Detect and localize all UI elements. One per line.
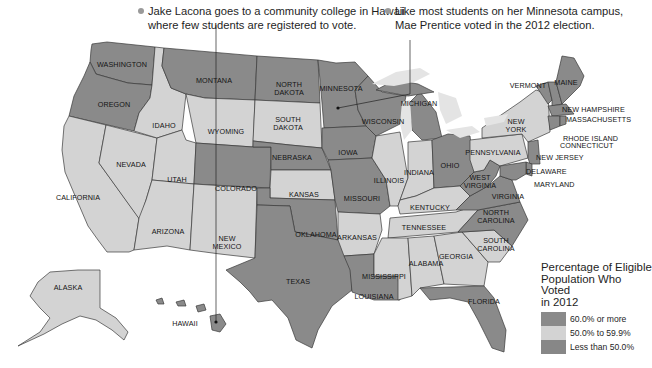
legend-title-line3: in 2012 bbox=[541, 297, 652, 309]
callout-hawaii-line1: Jake Lacona goes to a community college … bbox=[148, 5, 405, 17]
label-montana: MONTANA bbox=[196, 76, 232, 85]
label-new-hampshire: NEW HAMPSHIRE bbox=[562, 105, 625, 114]
label-tennessee: TENNESSEE bbox=[402, 223, 447, 232]
legend-label-under-50: Less than 50.0% bbox=[570, 342, 634, 352]
state-hawaii-big-island bbox=[210, 314, 226, 332]
legend-item-60-plus: 60.0% or more bbox=[541, 312, 652, 326]
label-louisiana: LOUISIANA bbox=[354, 292, 393, 301]
label-wyoming: WYOMING bbox=[208, 127, 245, 136]
label-north-carolina-2: CAROLINA bbox=[477, 216, 515, 225]
label-missouri: MISSOURI bbox=[344, 194, 380, 203]
label-maine: MAINE bbox=[554, 78, 577, 87]
label-oklahoma: OKLAHOMA bbox=[295, 230, 337, 239]
legend-item-50-to-59: 50.0% to 59.9% bbox=[541, 326, 652, 340]
label-ohio: OHIO bbox=[441, 161, 460, 170]
label-florida: FLORIDA bbox=[468, 297, 500, 306]
legend-label-60-plus: 60.0% or more bbox=[570, 314, 626, 324]
label-pennsylvania: PENNSYLVANIA bbox=[465, 148, 520, 157]
legend-swatch-60-plus bbox=[541, 312, 566, 326]
legend-item-under-50: Less than 50.0% bbox=[541, 340, 652, 354]
label-arkansas: ARKANSAS bbox=[337, 233, 377, 242]
legend-title: Percentage of Eligible Population Who Vo… bbox=[541, 262, 652, 308]
legend-swatch-under-50 bbox=[541, 340, 566, 354]
bullet-icon bbox=[385, 8, 391, 14]
label-iowa: IOWA bbox=[338, 148, 357, 157]
label-utah: UTAH bbox=[167, 175, 186, 184]
lake-superior bbox=[372, 68, 430, 86]
label-delaware: DELAWARE bbox=[526, 167, 567, 176]
label-hawaii: HAWAII bbox=[172, 319, 198, 328]
callout-minnesota-line2: Mae Prentice voted in the 2012 election. bbox=[395, 19, 595, 31]
label-texas: TEXAS bbox=[286, 277, 310, 286]
label-alaska: ALASKA bbox=[54, 283, 83, 292]
label-kentucky: KENTUCKY bbox=[410, 203, 450, 212]
state-florida bbox=[420, 286, 506, 352]
label-michigan: MICHIGAN bbox=[401, 99, 438, 108]
label-new-mexico-2: MEXICO bbox=[213, 242, 242, 251]
label-nebraska: NEBRASKA bbox=[272, 153, 312, 162]
legend-label-50-to-59: 50.0% to 59.9% bbox=[570, 328, 631, 338]
label-south-dakota-2: DAKOTA bbox=[273, 123, 303, 132]
label-vermont: VERMONT bbox=[510, 81, 547, 90]
callout-hawaii-line2: where few students are registered to vot… bbox=[148, 19, 356, 31]
state-hawaii-maui bbox=[196, 304, 206, 312]
callout-hawaii-dot bbox=[214, 320, 217, 323]
state-connecticut bbox=[548, 116, 560, 130]
label-wisconsin: WISCONSIN bbox=[362, 117, 404, 126]
legend-swatch-50-to-59 bbox=[541, 326, 566, 340]
label-mississippi: MISSISSIPPI bbox=[362, 272, 406, 281]
callout-minnesota: Like most students on her Minnesota camp… bbox=[385, 4, 623, 32]
label-illinois: ILLINOIS bbox=[374, 176, 404, 185]
label-new-york-2: YORK bbox=[506, 125, 527, 134]
callout-minnesota-line1: Like most students on her Minnesota camp… bbox=[395, 5, 623, 17]
legend-title-line1: Percentage of Eligible bbox=[541, 262, 652, 274]
state-alaska bbox=[18, 270, 128, 346]
state-new-york bbox=[482, 90, 550, 142]
label-indiana: INDIANA bbox=[404, 168, 434, 177]
label-kansas: KANSAS bbox=[289, 190, 319, 199]
label-idaho: IDAHO bbox=[152, 121, 176, 130]
label-maryland: MARYLAND bbox=[534, 180, 575, 189]
legend-title-line2: Population Who Voted bbox=[541, 274, 652, 297]
label-california: CALIFORNIA bbox=[56, 193, 100, 202]
label-nevada: NEVADA bbox=[116, 160, 146, 169]
callout-minnesota-dot bbox=[336, 106, 339, 109]
label-georgia: GEORGIA bbox=[439, 252, 473, 261]
label-arizona: ARIZONA bbox=[152, 227, 185, 236]
label-new-jersey: NEW JERSEY bbox=[536, 153, 584, 162]
state-hawaii-kauai bbox=[156, 298, 164, 304]
label-colorado: COLORADO bbox=[215, 184, 257, 193]
label-washington: WASHINGTON bbox=[97, 60, 147, 69]
callout-hawaii: Jake Lacona goes to a community college … bbox=[138, 4, 405, 32]
label-minnesota: MINNESOTA bbox=[319, 84, 362, 93]
lake-huron bbox=[438, 92, 462, 124]
label-south-carolina-2: CAROLINA bbox=[477, 244, 515, 253]
state-colorado bbox=[194, 143, 271, 188]
label-north-dakota-2: DAKOTA bbox=[274, 88, 304, 97]
bullet-icon bbox=[138, 8, 144, 14]
map-legend: Percentage of Eligible Population Who Vo… bbox=[541, 262, 652, 354]
label-virginia: VIRGINIA bbox=[492, 192, 524, 201]
us-voter-turnout-map: WASHINGTON OREGON CALIFORNIA NEVADA IDAH… bbox=[0, 0, 652, 368]
label-oregon: OREGON bbox=[98, 100, 131, 109]
label-connecticut: CONNECTICUT bbox=[560, 141, 614, 150]
label-massachusetts: MASSACHUSETTS bbox=[566, 115, 631, 124]
label-west-virginia-2: VIRGINIA bbox=[464, 181, 496, 190]
state-wyoming bbox=[186, 94, 255, 147]
state-hawaii-oahu bbox=[176, 300, 186, 306]
